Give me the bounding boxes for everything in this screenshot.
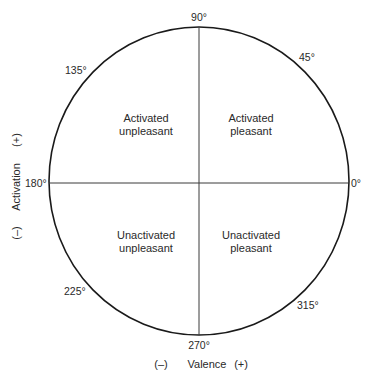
valence-label: Valence bbox=[188, 358, 227, 370]
angle-label-270: 270° bbox=[188, 339, 210, 351]
activation-positive: (+) bbox=[10, 133, 22, 147]
quadrant-top-left-line1: Activated bbox=[123, 112, 168, 124]
activation-label: Activation bbox=[10, 163, 22, 211]
quadrant-bottom-right-line2: pleasant bbox=[230, 242, 272, 254]
angle-label-0: 0° bbox=[351, 177, 361, 189]
quadrant-top-left-line2: unpleasant bbox=[119, 125, 173, 137]
quadrant-bottom-left: Unactivated unpleasant bbox=[117, 229, 175, 254]
quadrant-bottom-left-line2: unpleasant bbox=[119, 242, 173, 254]
quadrant-top-left: Activated unpleasant bbox=[119, 112, 173, 137]
activation-axis-label: (+) Activation (–) bbox=[10, 133, 22, 240]
angle-label-180: 180° bbox=[25, 177, 47, 189]
circumplex-diagram: 0° 45° 90° 135° 180° 225° 270° 315° Acti… bbox=[0, 0, 371, 379]
angle-label-135: 135° bbox=[65, 64, 87, 76]
valence-negative: (–) bbox=[154, 358, 167, 370]
valence-axis-label: (–) Valence (+) bbox=[154, 358, 248, 370]
quadrant-bottom-left-line1: Unactivated bbox=[117, 229, 175, 241]
quadrant-bottom-right-line1: Unactivated bbox=[222, 229, 280, 241]
quadrant-top-right-line1: Activated bbox=[228, 112, 273, 124]
angle-label-90: 90° bbox=[191, 11, 207, 23]
activation-negative: (–) bbox=[10, 226, 22, 239]
valence-positive: (+) bbox=[234, 358, 248, 370]
angle-label-315: 315° bbox=[297, 299, 319, 311]
angle-label-225: 225° bbox=[64, 285, 86, 297]
angle-label-45: 45° bbox=[299, 51, 315, 63]
quadrant-top-right-line2: pleasant bbox=[230, 125, 272, 137]
quadrant-top-right: Activated pleasant bbox=[228, 112, 273, 137]
quadrant-bottom-right: Unactivated pleasant bbox=[222, 229, 280, 254]
